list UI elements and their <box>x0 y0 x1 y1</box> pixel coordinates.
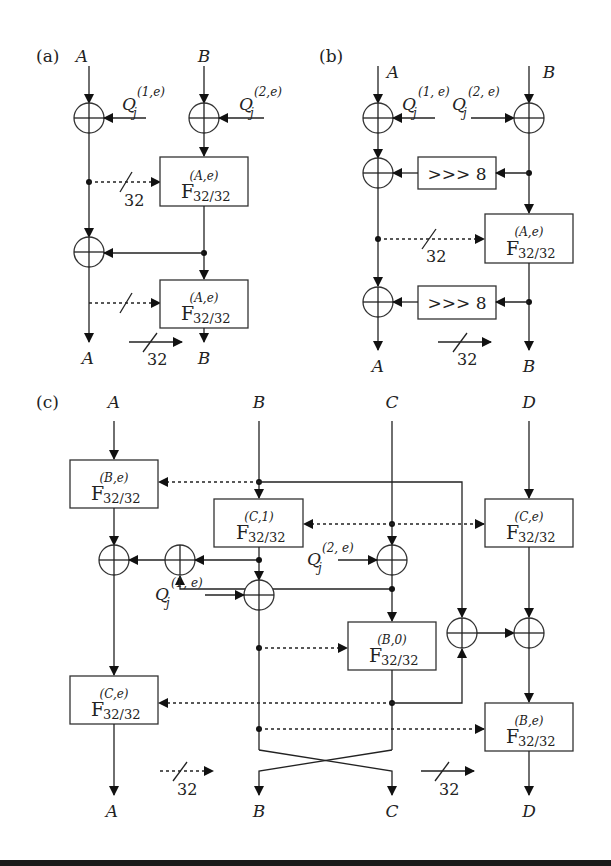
panel-label-a: (a) <box>36 46 59 66</box>
key-q2: Q j (2, e) <box>307 541 354 575</box>
input-a: A <box>74 46 88 66</box>
output-c: C <box>385 801 398 821</box>
svg-text:32/32: 32/32 <box>248 530 285 545</box>
svg-text:(1, e): (1, e) <box>418 85 450 99</box>
svg-text:32/32: 32/32 <box>518 246 555 261</box>
input-a: A <box>385 62 399 82</box>
output-d: D <box>521 801 536 821</box>
bus-width-c2: 32 <box>439 780 459 799</box>
rot-box-b2: >>> 8 <box>418 286 496 319</box>
key-q1: Q j (1, e) <box>155 576 203 610</box>
svg-text:(1, e): (1, e) <box>171 576 203 590</box>
input-b: B <box>197 46 211 66</box>
bus-width-b2: 32 <box>457 350 477 369</box>
svg-text:32/32: 32/32 <box>193 311 230 326</box>
key-q1: Q j (1,e) <box>122 85 165 120</box>
bottom-rule <box>0 860 611 866</box>
output-b: B <box>522 356 536 376</box>
f-box-b1: (A,e) F 32/32 <box>485 214 573 263</box>
f-box-c-be-top: (B,e) F 32/32 <box>70 460 158 508</box>
panel-c: (c) A B C D (B,e) F 32/32 (C,e) F 32/32 … <box>36 392 573 821</box>
panel-label-c: (c) <box>36 392 59 412</box>
output-b: B <box>252 801 266 821</box>
f-box-a1: (A,e) F 32/32 <box>160 157 248 206</box>
f-box-c-b0: (B,0) F 32/32 <box>348 622 436 670</box>
svg-text:(1,e): (1,e) <box>137 85 165 99</box>
input-c: C <box>385 392 398 412</box>
input-b: B <box>252 392 266 412</box>
output-a: A <box>370 356 384 376</box>
panel-a: (a) A B Q j (1,e) 32 A Q j (2,e) <box>36 46 282 369</box>
bus-width-a1: 32 <box>124 191 144 210</box>
key-q1: Q j (1, e) <box>402 85 450 120</box>
input-d: D <box>521 392 536 412</box>
panel-label-b: (b) <box>319 46 343 66</box>
svg-text:32/32: 32/32 <box>193 189 230 204</box>
rot-box-b1: >>> 8 <box>418 157 496 189</box>
svg-text:(2,e): (2,e) <box>254 85 282 99</box>
svg-text:32/32: 32/32 <box>103 491 140 506</box>
f-box-c-ce-right: (C,e) F 32/32 <box>485 499 573 547</box>
svg-text:(2, e): (2, e) <box>322 541 354 555</box>
f-box-c-ce-bottom: (C,e) F 32/32 <box>70 676 158 724</box>
key-q2: Q j (2,e) <box>239 85 282 120</box>
svg-text:>>> 8: >>> 8 <box>428 293 487 313</box>
input-a: A <box>106 392 120 412</box>
f-box-a2: (A,e) F 32/32 <box>160 280 248 328</box>
bus-width-c1: 32 <box>177 780 197 799</box>
svg-text:32/32: 32/32 <box>381 653 418 668</box>
svg-text:32/32: 32/32 <box>103 707 140 722</box>
key-q2: Q j (2, e) <box>452 85 500 120</box>
output-a: A <box>80 348 94 368</box>
bus-width-a2: 32 <box>147 350 167 369</box>
bus-width-b1: 32 <box>426 247 446 266</box>
input-b: B <box>542 62 556 82</box>
svg-text:32/32: 32/32 <box>518 530 555 545</box>
diagram-canvas: (a) A B Q j (1,e) 32 A Q j (2,e) <box>0 0 611 866</box>
f-box-c-be-right: (B,e) F 32/32 <box>485 703 573 751</box>
f-box-c-c1: (C,1) F 32/32 <box>214 499 303 547</box>
svg-text:32/32: 32/32 <box>518 734 555 749</box>
output-b: B <box>197 348 211 368</box>
panel-b: (b) A B Q j (1, e) Q j (2, e) >>> 8 <box>319 46 573 376</box>
svg-text:(2, e): (2, e) <box>468 85 500 99</box>
svg-text:>>> 8: >>> 8 <box>428 164 487 184</box>
output-a: A <box>104 801 118 821</box>
